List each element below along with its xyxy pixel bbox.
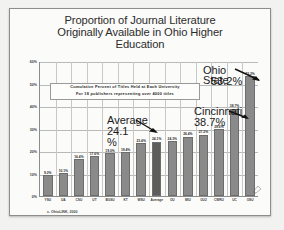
x-axis-tick-label: UC: [232, 198, 237, 202]
x-axis-tick-label: OU: [170, 198, 175, 202]
bar: [152, 142, 161, 196]
x-axis-tick-label: CWRU: [214, 198, 224, 202]
callout-average-unit: %: [107, 137, 147, 148]
x-axis-tick-label: BGSU: [105, 198, 114, 202]
bar-value-label: 27.2%: [199, 130, 208, 134]
chart-subtitle-box: Cumulative Percent of Titles Held at Eac…: [50, 83, 200, 100]
y-axis-tick-label: 20%: [30, 150, 37, 154]
bar-value-label: 24.1%: [152, 137, 161, 141]
x-axis-tick-label: OSU: [247, 198, 254, 202]
bar: [59, 173, 68, 196]
x-axis-tick-label: WSU: [137, 198, 144, 202]
x-axis-tick-label: UT: [92, 198, 96, 202]
y-axis-tick-label: 60%: [30, 60, 37, 64]
bar-value-label: 10.1%: [59, 169, 68, 173]
bar: [74, 159, 83, 196]
x-axis-tick-label: KT: [123, 198, 127, 202]
x-axis-tick-label: MIU: [185, 198, 191, 202]
chart-frame: Proportion of Journal Literature Origina…: [9, 8, 271, 216]
bar-value-label: 17.6%: [90, 152, 99, 156]
source-note: c. OhioLINK, 2000: [47, 210, 78, 214]
subtitle-line-2: For 18 publishers representing over 4000…: [51, 91, 199, 98]
y-axis-tick-label: 40%: [30, 105, 37, 109]
bar: [43, 175, 52, 196]
bar: [105, 153, 114, 196]
x-axis-tick-label: CSU: [76, 198, 83, 202]
bar-value-label: 9.2%: [44, 171, 52, 175]
bar: [90, 156, 99, 196]
y-axis-tick-label: 0%: [32, 195, 37, 199]
arrow-to-cincinnati-icon: [228, 109, 254, 123]
bar: [245, 76, 254, 196]
x-axis-tick-label: OU2: [200, 198, 207, 202]
bar: [136, 143, 145, 196]
bar: [168, 141, 177, 196]
subtitle-line-1: Cumulative Percent of Titles Held at Eac…: [51, 84, 199, 91]
title-line-3: Education: [24, 39, 256, 51]
bar: [121, 152, 130, 196]
arrow-to-ohio-state-icon: [234, 68, 266, 84]
bar-value-label: 19.4%: [121, 148, 130, 152]
y-axis-tick-label: 50%: [30, 83, 37, 87]
bar: [214, 129, 223, 196]
page-title: Proportion of Journal Literature Origina…: [24, 15, 256, 50]
arrow-to-average-icon: [135, 119, 163, 137]
bar: [183, 137, 192, 196]
slide-background: Proportion of Journal Literature Origina…: [0, 0, 284, 230]
bar-value-label: 24.3%: [168, 137, 177, 141]
bar: [199, 135, 208, 196]
bar-value-label: 16.4%: [74, 155, 83, 159]
pencil-doodle-icon: [252, 184, 264, 194]
bar-value-label: 26.4%: [183, 132, 192, 136]
x-axis-tick-label: YSU: [45, 198, 52, 202]
x-axis-tick-label: UA: [61, 198, 66, 202]
bar-value-label: 19.0%: [105, 149, 114, 153]
x-axis-tick-label: Average: [150, 198, 162, 202]
y-axis-tick-label: 10%: [30, 173, 37, 177]
y-axis-tick-label: 30%: [30, 128, 37, 132]
title-line-2: Originally Available in Ohio Higher: [24, 27, 256, 39]
